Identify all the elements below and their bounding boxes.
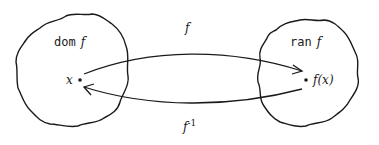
point-fx-label: f(x) (312, 73, 334, 87)
function-inverse-diagram: domf ranf x f(x) f f-1 (0, 0, 379, 145)
arrow-f (84, 54, 302, 74)
domain-set-shape (16, 14, 128, 127)
point-x-label: x (66, 73, 73, 87)
point-fx-dot (304, 78, 308, 82)
arrow-f-label: f (184, 21, 192, 35)
arrow-f-inverse (84, 87, 302, 103)
arrow-f-inverse-label: f-1 (182, 118, 196, 134)
range-label: ranf (290, 35, 324, 49)
point-x-dot (78, 78, 82, 82)
domain-label: domf (54, 35, 88, 49)
